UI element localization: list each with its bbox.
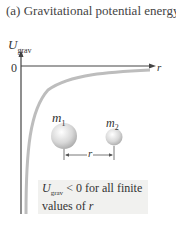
mass-m2-label: m2 [106,116,119,132]
x-axis-label: r [157,61,161,73]
y-axis-label: Ugrav [8,37,32,55]
separation-label: r [87,147,93,159]
mass-m1-label: m1 [52,110,65,128]
x-axis-arrow-icon [149,64,156,69]
annotation-box: Ugrav < 0 for all finite values of r [38,180,148,214]
zero-tick-label: 0 [11,61,17,76]
